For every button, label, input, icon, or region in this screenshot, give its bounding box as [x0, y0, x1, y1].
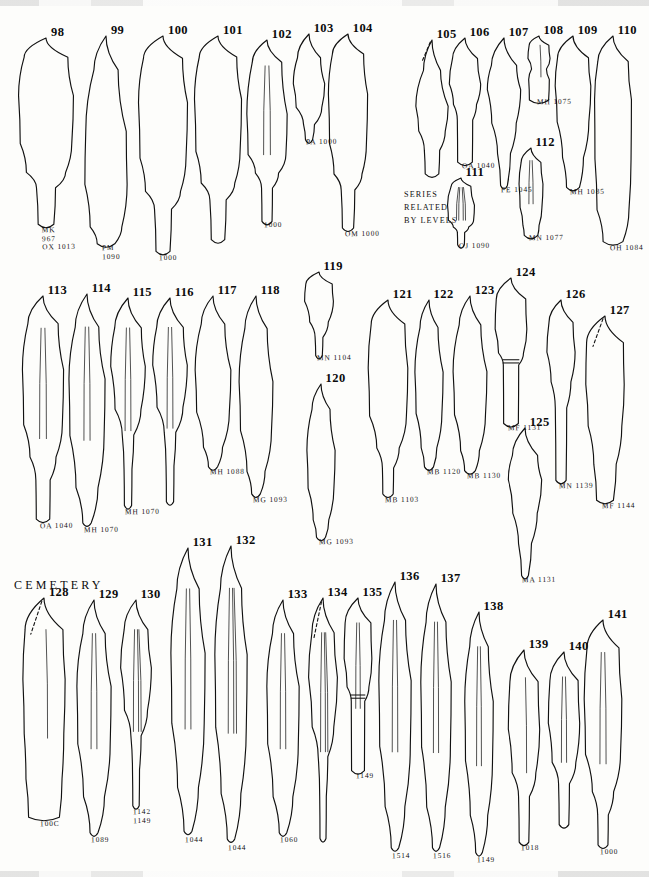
specimen-outline-141	[584, 620, 622, 852]
specimen-133: 1331060	[266, 600, 300, 840]
specimen-outline-116	[152, 298, 188, 508]
specimen-140: 140	[548, 652, 580, 830]
specimen-116: 116	[152, 298, 188, 508]
catalog-label-123: MB 1130	[467, 472, 501, 481]
specimen-outline-138	[464, 612, 494, 860]
specimen-outline-115	[110, 298, 146, 512]
specimen-outline-128	[22, 598, 66, 824]
specimen-136: 1361514	[378, 582, 412, 856]
specimen-outline-101	[194, 36, 242, 246]
catalog-label-135: 1149	[356, 772, 374, 781]
specimen-outline-108	[527, 36, 551, 102]
specimen-124: 124MF 1131	[495, 278, 527, 428]
specimen-outline-113	[22, 296, 64, 526]
specimen-outline-98	[18, 38, 74, 230]
catalog-label-114: MH 1070	[84, 526, 119, 535]
specimen-123: 123MB 1130	[452, 296, 488, 476]
catalog-label-139: 1018	[521, 844, 540, 853]
figure-number-99: 99	[111, 23, 124, 38]
specimen-101: 101	[194, 36, 242, 246]
figure-number-139: 139	[529, 637, 549, 652]
specimen-outline-130	[120, 600, 152, 812]
specimen-outline-107	[487, 38, 521, 190]
catalog-label-136: 1514	[392, 852, 411, 861]
figure-number-137: 137	[441, 571, 461, 586]
specimen-129: 1291089	[76, 600, 112, 840]
figure-number-112: 112	[536, 135, 555, 150]
specimen-outline-99	[84, 36, 128, 248]
catalog-label-132: 1044	[228, 844, 247, 853]
figure-number-111: 111	[466, 165, 485, 180]
figure-number-118: 118	[261, 283, 280, 298]
specimen-113: 113OA 1040	[22, 296, 64, 526]
figure-number-129: 129	[99, 587, 119, 602]
specimen-outline-135	[344, 598, 372, 776]
catalog-label-130: 1142 1149	[133, 808, 151, 826]
catalog-label-115: MH 1070	[125, 508, 160, 517]
specimen-outline-105	[415, 40, 449, 178]
specimen-110: 110OH 1084	[594, 36, 632, 248]
catalog-label-120: MG 1093	[319, 538, 354, 547]
specimen-119: 119MN 1104	[304, 272, 334, 358]
specimen-outline-103	[293, 34, 325, 142]
specimen-99: 99PM 1090	[84, 36, 128, 248]
specimen-outline-121	[368, 300, 408, 500]
figure-number-127: 127	[610, 303, 630, 318]
specimen-105: 105	[415, 40, 449, 178]
specimen-outline-119	[304, 272, 334, 358]
catalog-label-128: 100C	[40, 820, 60, 829]
specimen-outline-120	[306, 384, 336, 542]
specimen-outline-104	[328, 34, 368, 234]
specimen-103: 103PA 1000	[293, 34, 325, 142]
catalog-label-138: 1149	[477, 856, 495, 865]
figure-number-98: 98	[51, 25, 64, 40]
figure-number-101: 101	[223, 23, 243, 38]
specimen-109: 109MH 1085	[555, 36, 591, 192]
specimen-135: 1351149	[344, 598, 372, 776]
figure-number-110: 110	[618, 23, 637, 38]
specimen-outline-114	[68, 294, 106, 530]
specimen-111: 111OJ 1090	[447, 178, 475, 246]
specimen-112: 112MN 1077	[518, 148, 544, 238]
catalog-label-121: MB 1103	[385, 496, 419, 505]
figure-number-120: 120	[326, 371, 346, 386]
specimen-134: 134	[308, 598, 338, 846]
figure-number-128: 128	[49, 585, 69, 600]
catalog-label-110: OH 1084	[610, 244, 644, 253]
figure-number-115: 115	[133, 285, 152, 300]
specimen-outline-118	[238, 296, 274, 500]
catalog-label-104: OM 1000	[345, 230, 380, 239]
specimen-102: 1021000	[246, 40, 288, 225]
catalog-label-141: 1000	[600, 848, 619, 857]
specimen-outline-132	[214, 546, 248, 848]
figure-number-141: 141	[608, 607, 628, 622]
specimen-outline-117	[194, 296, 232, 472]
figure-number-100: 100	[168, 23, 188, 38]
specimen-outline-110	[594, 36, 632, 248]
figure-number-130: 130	[141, 587, 161, 602]
catalog-label-111: OJ 1090	[459, 242, 490, 251]
specimen-outline-106	[449, 38, 481, 166]
figure-number-124: 124	[516, 265, 536, 280]
scan-edge-bottom	[0, 871, 649, 877]
specimen-outline-109	[555, 36, 591, 192]
specimen-141: 1411000	[584, 620, 622, 852]
specimen-106: 106OA 1040	[449, 38, 481, 166]
specimen-outline-124	[495, 278, 527, 428]
specimen-128: 128100C	[22, 598, 66, 824]
specimen-outline-137	[420, 584, 452, 856]
specimen-115: 115MH 1070	[110, 298, 146, 512]
specimen-outline-131	[170, 548, 206, 840]
catalog-label-131: 1044	[185, 836, 204, 845]
specimen-outline-129	[76, 600, 112, 840]
catalog-label-129: 1089	[91, 836, 110, 845]
figure-number-114: 114	[92, 281, 111, 296]
specimen-130: 1301142 1149	[120, 600, 152, 812]
specimen-100: 1001000	[138, 36, 188, 258]
specimen-outline-126	[546, 300, 576, 486]
figure-number-119: 119	[324, 259, 343, 274]
catalog-label-98: MK 967 OX 1013	[41, 226, 75, 252]
specimen-outline-140	[548, 652, 580, 830]
figure-number-138: 138	[484, 599, 504, 614]
specimen-139: 1391018	[508, 650, 540, 848]
